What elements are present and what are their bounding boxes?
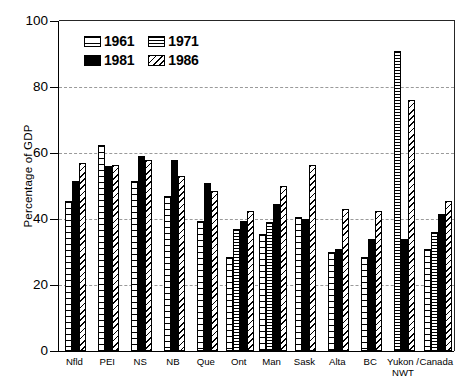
x-axis-label-pei: PEI	[91, 356, 124, 378]
y-axis-label-20: 20	[8, 278, 48, 292]
legend-item-1971: 1971	[148, 34, 198, 48]
bar-man-1971	[266, 222, 273, 351]
bar-nb-1961	[164, 196, 171, 351]
bar-ont-1981	[240, 221, 247, 351]
bar-chart: Percentage of GDP 020406080100 NfldPEINS…	[0, 0, 465, 391]
bar-pei-1981	[105, 166, 112, 351]
plot-area	[58, 21, 454, 352]
bar-nb-1981	[171, 160, 178, 351]
legend-item-1961: 1961	[84, 34, 134, 48]
bar-group-sask	[289, 21, 322, 351]
bar-alta-1986	[342, 209, 349, 351]
bar-group-nfld	[59, 21, 92, 351]
bar-sask-1961	[295, 217, 302, 351]
bar-que-1961	[197, 221, 204, 351]
bar-canada-1981	[438, 214, 445, 351]
bar-pei-1961	[98, 145, 105, 351]
bar-ont-1986	[247, 211, 254, 351]
legend-swatch-1981	[84, 55, 101, 66]
bar-ont-1961	[226, 257, 233, 351]
y-axis-label-60: 60	[8, 146, 48, 160]
legend-label-1961: 1961	[104, 34, 134, 48]
y-axis-label-40: 40	[8, 212, 48, 226]
bar-que-1986	[211, 191, 218, 351]
x-axis-label-ns: NS	[124, 356, 157, 378]
bar-alta-1981	[335, 249, 342, 351]
bar-yukonnwt-1986	[408, 100, 415, 351]
chart-legend: 1961197119811986	[84, 34, 199, 67]
y-axis-label-100: 100	[8, 14, 48, 28]
x-axis-label-nfld: Nfld	[58, 356, 91, 378]
bar-yukonnwt-1971	[394, 51, 401, 351]
x-axis-label-que: Que	[189, 356, 222, 378]
bar-group-que	[191, 21, 224, 351]
bar-group-nb	[158, 21, 191, 351]
y-tick-60	[50, 153, 59, 154]
x-axis-label-canada: Canada	[419, 356, 453, 378]
bar-group-pei	[92, 21, 125, 351]
bar-sask-1981	[302, 219, 309, 351]
bar-sask-1986	[309, 165, 316, 351]
bar-group-ns	[125, 21, 158, 351]
bar-que-1981	[204, 183, 211, 351]
bar-group-canada	[421, 21, 454, 351]
bar-man-1986	[280, 186, 287, 351]
legend-swatch-1971	[148, 36, 165, 47]
legend-item-1986: 1986	[148, 53, 198, 67]
y-tick-20	[50, 285, 59, 286]
plot-right-border	[454, 20, 455, 351]
bar-pei-1986	[112, 165, 119, 351]
x-axis-label-nb: NB	[157, 356, 190, 378]
x-axis-label-man: Man	[255, 356, 288, 378]
bar-group-man	[257, 21, 290, 351]
x-axis-label-yukonnwt: Yukon /NWT	[387, 356, 420, 378]
x-axis-label-alta: Alta	[321, 356, 354, 378]
legend-label-1986: 1986	[168, 53, 198, 67]
legend-label-1971: 1971	[168, 34, 198, 48]
bar-nfld-1961	[65, 201, 72, 351]
bar-bc-1986	[375, 211, 382, 351]
x-axis-labels: NfldPEINSNBQueOntManSaskAltaBCYukon /NWT…	[58, 356, 453, 378]
bar-groups	[59, 21, 454, 351]
x-axis-label-sask: Sask	[288, 356, 321, 378]
y-tick-80	[50, 87, 59, 88]
legend-swatch-1961	[84, 36, 101, 47]
bar-canada-1986	[445, 201, 452, 351]
y-tick-0	[50, 351, 59, 352]
bar-bc-1981	[368, 239, 375, 351]
x-axis-label-ont: Ont	[222, 356, 255, 378]
bar-ns-1986	[145, 160, 152, 351]
bar-ns-1961	[131, 181, 138, 351]
bar-nfld-1986	[79, 163, 86, 351]
legend-label-1981: 1981	[104, 53, 134, 67]
bar-yukonnwt-1981	[401, 239, 408, 351]
bar-nb-1986	[178, 176, 185, 351]
y-axis-title: Percentage of GDP	[22, 86, 34, 266]
bar-canada-1961	[424, 249, 431, 351]
x-axis-label-bc: BC	[354, 356, 387, 378]
bar-man-1961	[259, 234, 266, 351]
legend-swatch-1986	[148, 55, 165, 66]
bar-man-1981	[273, 204, 280, 351]
y-axis-label-0: 0	[8, 344, 48, 358]
bar-bc-1961	[361, 257, 368, 351]
bar-group-alta	[322, 21, 355, 351]
bar-alta-1961	[328, 252, 335, 351]
bar-group-ont	[224, 21, 257, 351]
bar-ont-1971	[233, 229, 240, 351]
legend-item-1981: 1981	[84, 53, 134, 67]
bar-ns-1981	[138, 156, 145, 351]
bar-group-yukonnwt	[388, 21, 421, 351]
bar-canada-1971	[431, 232, 438, 351]
bar-group-bc	[355, 21, 388, 351]
bar-nfld-1981	[72, 181, 79, 351]
y-axis-label-80: 80	[8, 80, 48, 94]
y-tick-40	[50, 219, 59, 220]
y-tick-100	[50, 21, 59, 22]
